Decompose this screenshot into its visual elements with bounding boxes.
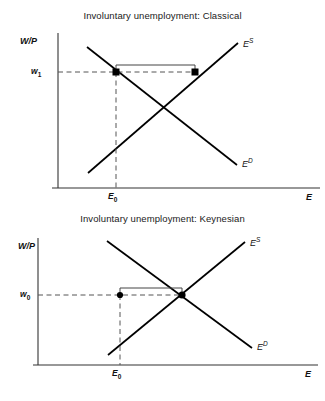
y-tick-label-classical: w1 [31,66,41,78]
demand-point-marker-classical [113,69,120,76]
supply-curve-label-classical: ES [243,37,253,49]
y-tick-subscript-classical: 1 [38,71,42,78]
plot-area-classical [0,0,325,200]
supply-curve-classical [88,43,238,173]
demand-curve-label-classical: ED [242,157,253,169]
figure-classical: Involuntary unemployment: Classical W/P … [0,0,325,200]
y-tick-base-keynesian: w [20,289,27,299]
figure-keynesian: Involuntary unemployment: Keynesian W/P … [0,200,325,401]
demand-curve-superscript-classical: D [248,157,253,164]
y-axis-label-keynesian: W/P [18,241,35,251]
supply-curve-superscript-keynesian: S [256,236,260,243]
supply-curve-superscript-classical: S [249,37,253,44]
x-tick-subscript-keynesian: 0 [118,373,122,380]
supply-curve-keynesian [108,242,245,355]
y-axis-label-classical: W/P [20,36,37,46]
equilibrium-point-marker-keynesian [178,291,185,298]
x-tick-label-keynesian: E0 [112,368,121,380]
supply-point-marker-classical [192,69,199,76]
demand-curve-label-keynesian: ED [257,340,268,352]
x-axis-label-keynesian: E [305,369,311,379]
y-tick-label-keynesian: w0 [20,289,30,301]
plot-area-keynesian [0,200,325,401]
supply-point-marker-keynesian [117,292,123,298]
y-tick-base-classical: w [31,66,38,76]
supply-curve-label-keynesian: ES [250,236,260,248]
demand-curve-superscript-keynesian: D [263,340,268,347]
y-tick-subscript-keynesian: 0 [27,294,31,301]
